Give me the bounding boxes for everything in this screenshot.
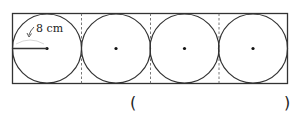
answer-bracket-open: ( (130, 93, 136, 112)
diagram: 8 cm (0, 0, 295, 121)
center-dot-4 (251, 47, 254, 50)
answer-bracket-close: ) (284, 93, 290, 112)
radius-label: 8 cm (36, 22, 64, 35)
radius-arc (16, 40, 44, 44)
center-dot-3 (183, 47, 186, 50)
center-dot-2 (114, 47, 117, 50)
